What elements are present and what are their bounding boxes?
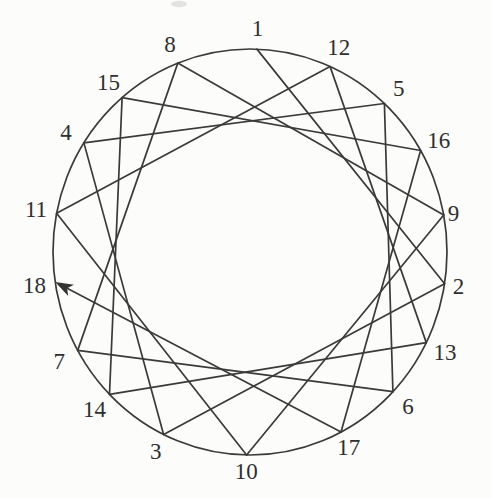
point-label-4: 4	[60, 120, 72, 145]
point-label-5: 5	[393, 76, 405, 101]
chord-15-16	[122, 98, 421, 151]
point-label-18: 18	[23, 273, 46, 298]
point-label-15: 15	[97, 70, 120, 95]
point-label-12: 12	[327, 35, 350, 60]
point-label-13: 13	[434, 340, 457, 365]
point-label-9: 9	[448, 201, 460, 226]
chord-7-8	[78, 63, 178, 350]
scan-smudge-0	[171, 1, 187, 7]
point-label-16: 16	[427, 128, 450, 153]
point-label-1: 1	[252, 16, 264, 41]
point-label-17: 17	[337, 435, 360, 460]
point-label-11: 11	[25, 197, 47, 222]
point-label-6: 6	[402, 394, 414, 419]
point-label-10: 10	[235, 459, 258, 484]
point-label-7: 7	[54, 349, 66, 374]
point-label-2: 2	[453, 274, 465, 299]
chord-3-4	[84, 143, 164, 435]
point-label-14: 14	[83, 397, 107, 422]
circle-diagram: 112516921361710314718114158	[0, 0, 491, 498]
point-label-3: 3	[150, 439, 162, 464]
diagram-page: 112516921361710314718114158	[0, 0, 491, 498]
chord-4-5	[84, 104, 385, 143]
chord-17-18	[67, 288, 341, 432]
chord-13-14	[110, 343, 427, 395]
point-label-8: 8	[164, 32, 176, 57]
